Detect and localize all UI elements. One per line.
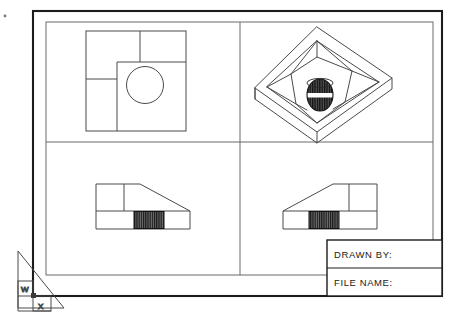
front-view-hole-hatch — [134, 212, 164, 229]
iso-cylinder-highlight-band — [305, 93, 335, 98]
wcs-origin-marker — [31, 293, 36, 298]
front-view-hole-hatch-group — [134, 212, 164, 229]
title-block-file-name-label: FILE NAME: — [334, 277, 393, 288]
wcs-x-axis-label: X — [38, 302, 44, 311]
wcs-w-axis-label: W — [21, 285, 29, 294]
cad-drawing-canvas: DRAWN BY: FILE NAME: W X — [0, 0, 458, 335]
title-block[interactable]: DRAWN BY: FILE NAME: — [327, 240, 442, 296]
right-view-hole-hatch — [309, 212, 339, 229]
scan-artifact-dot — [4, 15, 7, 18]
title-block-drawn-by-label: DRAWN BY: — [334, 249, 392, 260]
right-view-hole-hatch-group — [309, 212, 339, 229]
